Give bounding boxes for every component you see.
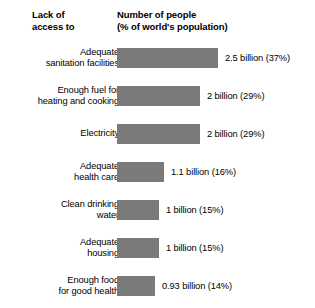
- chart-row: Enough food for good health0.93 billion …: [0, 267, 315, 305]
- chart-row: Enough fuel for heating and cooking2 bil…: [0, 77, 315, 115]
- bar-value-label: 2.5 billion (37%): [225, 53, 290, 64]
- bar: [117, 162, 164, 182]
- bar: [117, 48, 218, 68]
- chart-rows: Adequate sanitation facilities2.5 billio…: [0, 39, 315, 305]
- bar-value-label: 0.93 billion (14%): [162, 281, 232, 292]
- header-category-column: Lack of access to: [32, 9, 74, 32]
- category-label: Enough fuel for heating and cooking: [4, 85, 119, 108]
- category-label: Electricity: [4, 128, 119, 139]
- bar-value-label: 1 billion (15%): [166, 243, 223, 254]
- bar-value-label: 2 billion (29%): [207, 129, 264, 140]
- category-label: Adequate health care: [4, 161, 119, 184]
- category-label: Adequate housing: [4, 237, 119, 260]
- chart-row: Adequate health care1.1 billion (16%): [0, 153, 315, 191]
- chart-row: Adequate sanitation facilities2.5 billio…: [0, 39, 315, 77]
- bar-chart: Lack of access to Number of people (% of…: [0, 0, 315, 308]
- category-label: Adequate sanitation facilities: [4, 47, 119, 70]
- bar: [117, 276, 155, 296]
- category-label: Enough food for good health: [4, 275, 119, 298]
- bar-group: 1 billion (15%): [117, 200, 223, 220]
- chart-row: Clean drinking water1 billion (15%): [0, 191, 315, 229]
- bar-group: 2.5 billion (37%): [117, 48, 290, 68]
- category-label: Clean drinking water: [4, 199, 119, 222]
- header-value-column: Number of people (% of world's populatio…: [117, 9, 228, 32]
- bar-value-label: 2 billion (29%): [207, 91, 264, 102]
- bar-group: 2 billion (29%): [117, 124, 264, 144]
- bar-group: 1 billion (15%): [117, 238, 223, 258]
- bar: [117, 238, 159, 258]
- bar-value-label: 1.1 billion (16%): [171, 167, 236, 178]
- bar-group: 1.1 billion (16%): [117, 162, 236, 182]
- bar: [117, 86, 200, 106]
- bar-value-label: 1 billion (15%): [166, 205, 223, 216]
- chart-row: Electricity2 billion (29%): [0, 115, 315, 153]
- bar: [117, 200, 159, 220]
- chart-row: Adequate housing1 billion (15%): [0, 229, 315, 267]
- chart-header: Lack of access to Number of people (% of…: [0, 9, 315, 39]
- bar-group: 0.93 billion (14%): [117, 276, 232, 296]
- bar-group: 2 billion (29%): [117, 86, 264, 106]
- bar: [117, 124, 200, 144]
